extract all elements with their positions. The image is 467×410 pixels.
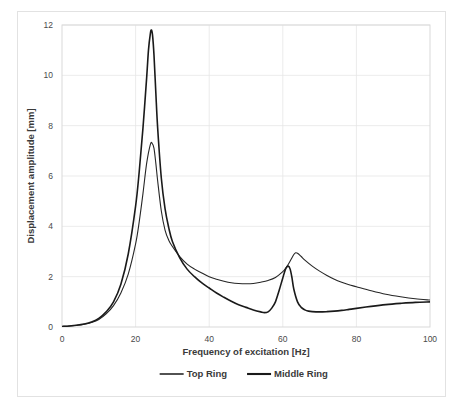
chart-figure: 024681012 020406080100 Displacement ampl… <box>0 0 467 410</box>
data-series-group <box>62 30 430 327</box>
y-tick-10: 10 <box>44 70 54 80</box>
x-tick-80: 80 <box>352 334 362 344</box>
x-axis-title: Frequency of excitation [Hz] <box>182 346 309 357</box>
legend-item-middle-ring: Middle Ring <box>247 368 328 379</box>
y-tick-8: 8 <box>48 121 53 131</box>
y-tick-6: 6 <box>48 171 53 181</box>
y-tick-4: 4 <box>48 221 53 231</box>
x-tick-60: 60 <box>278 334 288 344</box>
y-tick-0: 0 <box>48 322 53 332</box>
y-axis-title: Displacement amplitude [mm] <box>25 108 36 243</box>
gridlines <box>62 25 430 327</box>
x-tick-40: 40 <box>204 334 214 344</box>
x-tick-20: 20 <box>131 334 141 344</box>
x-axis-tick-labels: 020406080100 <box>60 334 438 344</box>
legend-item-top-ring: Top Ring <box>160 368 228 379</box>
line-chart: 024681012 020406080100 Displacement ampl… <box>0 0 467 410</box>
series-line-top-ring <box>62 142 430 326</box>
x-tick-100: 100 <box>423 334 437 344</box>
y-tick-12: 12 <box>44 20 54 30</box>
series-line-middle-ring <box>62 30 430 327</box>
y-axis-tick-labels: 024681012 <box>44 20 54 332</box>
legend-label: Middle Ring <box>274 368 328 379</box>
legend-label: Top Ring <box>187 368 228 379</box>
y-tick-2: 2 <box>48 272 53 282</box>
chart-legend: Top RingMiddle Ring <box>160 368 328 379</box>
x-tick-0: 0 <box>60 334 65 344</box>
